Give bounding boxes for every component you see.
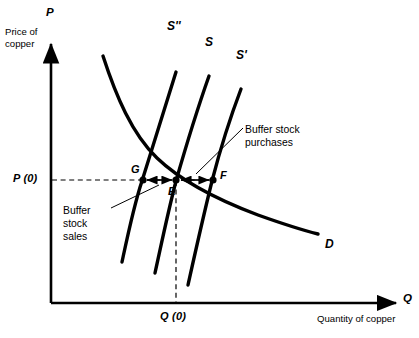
curve-label-S: S	[205, 36, 213, 50]
point-marker-F	[209, 176, 216, 183]
point-marker-G	[139, 176, 146, 183]
buffer-stock-purchases-label-line1: Buffer stock	[245, 124, 300, 136]
curve-label-S-prime: S'	[236, 49, 247, 63]
point-marker-E	[172, 176, 179, 183]
point-label-F: F	[220, 169, 227, 182]
price-equilibrium-tick-label: P (0)	[13, 172, 37, 185]
buffer-stock-purchases-label-line2: purchases	[245, 137, 293, 149]
buffer-stock-sales-label-line1: Buffer	[63, 205, 91, 217]
point-label-E: E	[168, 185, 175, 198]
supply-curve-S	[155, 76, 209, 273]
curve-label-S-double-prime: S''	[167, 20, 181, 34]
quantity-equilibrium-tick-label: Q (0)	[160, 310, 186, 323]
curve-label-D: D	[325, 238, 334, 252]
x-axis-symbol: Q	[403, 292, 412, 305]
buffer-stock-sales-label-line2: stock	[63, 218, 87, 230]
point-label-G: G	[131, 163, 140, 176]
y-axis-symbol: P	[46, 6, 54, 19]
buffer-stock-purchases-leader-line	[196, 128, 243, 174]
y-axis-description-line1: Price of	[5, 26, 38, 37]
buffer-stock-sales-label-line3: sales	[63, 231, 87, 243]
y-axis-description-line2: copper	[5, 38, 34, 49]
x-axis-description: Quantity of copper	[317, 313, 395, 324]
diagram-canvas	[0, 0, 419, 338]
supply-demand-figure: P Q Price of copper Quantity of copper P…	[0, 0, 419, 338]
